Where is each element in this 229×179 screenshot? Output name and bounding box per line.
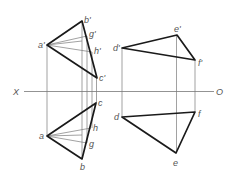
label-h-prime: h' (94, 46, 101, 56)
label-f-prime: f' (198, 58, 203, 68)
label-a-prime: a' (38, 40, 45, 50)
label-g-prime: g' (89, 29, 96, 39)
triangle-abc-top-view (47, 103, 96, 159)
axis-label-x: X (12, 87, 20, 97)
label-g: g (89, 139, 94, 149)
label-f: f (198, 109, 202, 119)
label-h: h (93, 123, 98, 133)
label-e: e (173, 158, 178, 168)
label-c-prime: c' (99, 73, 106, 83)
label-d-prime: d' (113, 43, 120, 53)
axis-label-o: O (216, 87, 223, 97)
label-b-prime: b' (84, 15, 91, 25)
triangle-def-front-view (122, 35, 195, 60)
label-e-prime: e' (174, 24, 181, 34)
projection-diagram: X O a' b' g' h' c' a c h (0, 0, 229, 179)
triangle-def-top-view (122, 112, 195, 153)
label-b: b (80, 162, 85, 172)
label-a: a (39, 131, 44, 141)
label-c: c (98, 98, 103, 108)
label-d: d (114, 112, 120, 122)
